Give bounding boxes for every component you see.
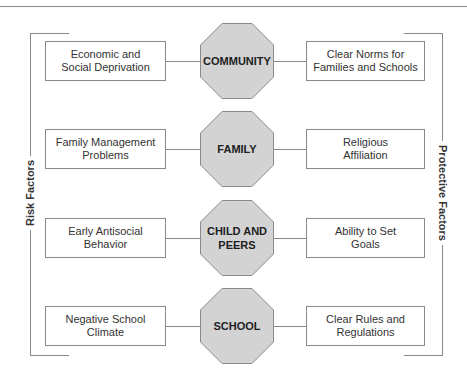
- protective-factor-box: Clear Rules and Regulations: [306, 306, 425, 346]
- domain-octagon: CHILD AND PEERS: [200, 200, 274, 276]
- protective-factor-text: Religious Affiliation: [343, 136, 388, 163]
- connector-line: [166, 326, 201, 327]
- top-rule: [0, 6, 467, 7]
- domain-octagon: COMMUNITY: [200, 23, 274, 99]
- protective-factor-box: Clear Norms for Families and Schools: [306, 41, 425, 81]
- domain-octagon: FAMILY: [200, 111, 274, 187]
- protective-factor-text: Ability to Set Goals: [335, 225, 396, 252]
- domain-label: COMMUNITY: [200, 23, 274, 99]
- risk-factor-box: Early Antisocial Behavior: [45, 218, 166, 258]
- risk-factor-box: Family Management Problems: [45, 129, 166, 169]
- connector-line: [273, 61, 306, 62]
- protective-factor-box: Religious Affiliation: [306, 129, 425, 169]
- connector-line: [273, 238, 306, 239]
- row-child-and-peers: Early Antisocial Behavior CHILD AND PEER…: [0, 198, 467, 278]
- risk-factor-text: Family Management Problems: [56, 136, 156, 163]
- domain-label: FAMILY: [200, 111, 274, 187]
- risk-factor-box: Economic and Social Deprivation: [45, 41, 166, 81]
- protective-factor-box: Ability to Set Goals: [306, 218, 425, 258]
- risk-factor-text: Economic and Social Deprivation: [61, 48, 150, 75]
- connector-line: [166, 149, 201, 150]
- protective-factor-text: Clear Norms for Families and Schools: [313, 48, 418, 75]
- risk-factor-box: Negative School Climate: [45, 306, 166, 346]
- risk-factor-text: Negative School Climate: [65, 313, 145, 340]
- risk-factor-text: Early Antisocial Behavior: [68, 225, 143, 252]
- domain-octagon: SCHOOL: [200, 288, 274, 364]
- connector-line: [166, 61, 201, 62]
- domain-label: SCHOOL: [200, 288, 274, 364]
- connector-line: [273, 326, 306, 327]
- connector-line: [273, 149, 306, 150]
- domain-label: CHILD AND PEERS: [200, 200, 274, 276]
- protective-factor-text: Clear Rules and Regulations: [326, 313, 405, 340]
- row-school: Negative School Climate SCHOOL Clear Rul…: [0, 286, 467, 366]
- row-family: Family Management Problems FAMILY Religi…: [0, 109, 467, 189]
- row-community: Economic and Social Deprivation COMMUNIT…: [0, 21, 467, 101]
- connector-line: [166, 238, 201, 239]
